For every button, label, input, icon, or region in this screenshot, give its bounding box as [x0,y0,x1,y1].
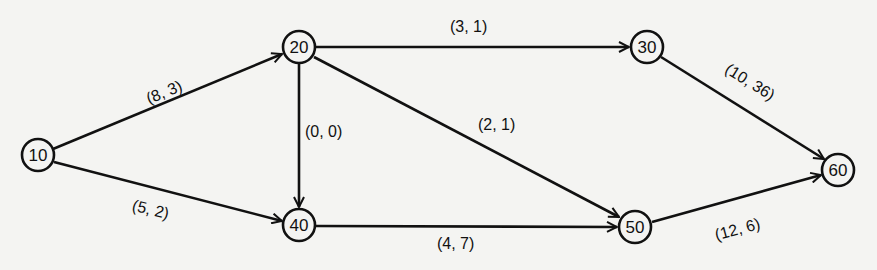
edge-20-30: (3, 1) [316,18,629,47]
node-50: 50 [619,211,651,243]
edge-label: (10, 36) [722,60,778,104]
edge-10-40: (5, 2) [54,162,282,222]
node-label: 60 [829,161,848,180]
node-label: 40 [290,216,309,235]
edge-label: (12, 6) [713,215,762,243]
node-30: 30 [631,31,663,63]
network-diagram: (8, 3) (5, 2) (3, 1) (0, 0) (2, 1) (4, 7… [0,0,877,270]
edge-label: (4, 7) [437,235,474,252]
edge-40-50: (4, 7) [316,226,617,252]
edge-30-60: (10, 36) [661,57,824,159]
edge-label: (5, 2) [131,197,171,223]
edge-label: (3, 1) [450,18,487,35]
node-40: 40 [283,209,315,241]
node-label: 50 [626,218,645,237]
diagram-canvas: (8, 3) (5, 2) (3, 1) (0, 0) (2, 1) (4, 7… [0,0,877,270]
edge-20-40: (0, 0) [299,64,342,207]
node-20: 20 [283,31,315,63]
node-label: 10 [29,146,48,165]
node-10: 10 [22,139,54,171]
edge-20-50: (2, 1) [314,57,619,217]
edge-50-60: (12, 6) [652,175,821,243]
node-label: 30 [638,38,657,57]
edge-label: (2, 1) [478,116,515,133]
node-60: 60 [822,154,854,186]
edge-10-20: (8, 3) [53,54,282,149]
node-label: 20 [290,38,309,57]
edge-label: (0, 0) [305,123,342,140]
